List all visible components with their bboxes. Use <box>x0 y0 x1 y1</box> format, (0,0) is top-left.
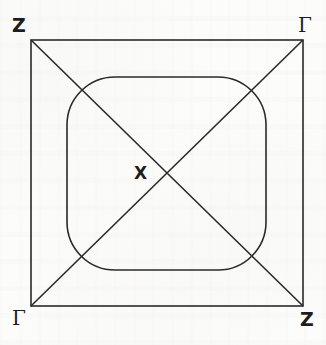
zone-corner-label-bottom-left: Γ <box>12 308 26 328</box>
zone-corner-label-top-left: Z <box>12 16 26 35</box>
zone-corner-label-top-right: Γ <box>298 15 312 35</box>
zone-diagram-svg <box>0 0 326 345</box>
zone-corner-label-bottom-right: Z <box>300 310 314 329</box>
brillouin-zone-figure: Z Γ Γ Z X <box>0 0 326 345</box>
zone-center-label: X <box>134 165 147 182</box>
